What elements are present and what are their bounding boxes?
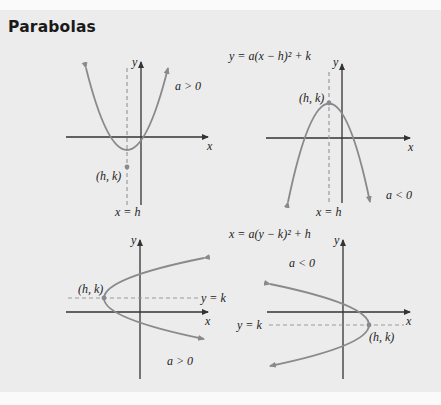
graph-opens-up: y x a > 0 (h, k) x = h [66,55,213,219]
parabolas-diagram: y = a(x − h)² + k x = a(y − k)² + h y x … [0,0,441,405]
y-axis-label: y [332,55,339,69]
vertex-point [327,101,332,106]
graph-opens-down: y x a < 0 (h, k) x = h [266,55,414,219]
graph-opens-right: y x a > 0 (h, k) y = k [66,233,226,379]
y-axis-label: y [130,233,137,247]
vertex-label: (h, k) [369,330,394,344]
vertical-equation: y = a(x − h)² + k [228,49,312,63]
condition-label: a < 0 [289,256,315,270]
vertex-point [125,165,130,170]
horizontal-equation: x = a(y − k)² + h [228,227,311,241]
axis-of-symmetry-label: y = k [236,318,262,332]
condition-label: a > 0 [167,354,193,368]
vertex-point [102,296,107,301]
vertex-label: (h, k) [299,91,324,105]
y-axis-label: y [131,55,138,69]
condition-label: a < 0 [386,188,412,202]
y-axis-label: y [333,233,340,247]
x-axis-label: x [405,314,412,328]
vertex-point [367,323,372,328]
axis-of-symmetry-label: x = h [114,205,140,219]
x-axis-label: x [407,140,414,154]
graph-opens-left: y x a < 0 (h, k) y = k [236,233,412,379]
condition-label: a > 0 [175,79,201,93]
x-axis-label: x [204,314,211,328]
axis-of-symmetry-label: y = k [200,291,226,305]
vertex-label: (h, k) [96,169,121,183]
parabola-curve [86,68,168,150]
x-axis-label: x [206,139,213,153]
axis-of-symmetry-label: x = h [315,205,341,219]
vertex-label: (h, k) [78,282,103,296]
